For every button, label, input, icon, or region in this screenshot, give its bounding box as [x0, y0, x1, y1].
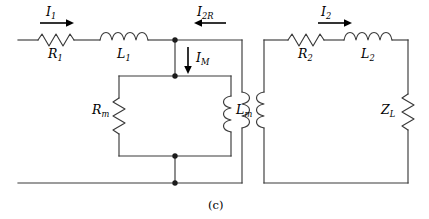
figure-caption: (c): [208, 198, 223, 212]
label-l2: L2: [361, 48, 375, 61]
current-arrow-i2-head: [344, 19, 352, 27]
node-dot-mag-top: [172, 73, 177, 78]
label-lm: Lm: [236, 104, 252, 117]
inductor-lm-symbol: [224, 96, 232, 132]
label-l1: L1: [117, 48, 131, 61]
label-zl: ZL: [381, 104, 395, 117]
resistor-r1-symbol: [38, 34, 74, 46]
current-arrow-im-head: [184, 66, 192, 74]
node-dot-mag-bottom: [172, 153, 177, 158]
label-current-im: IM: [196, 52, 210, 65]
current-arrow-i2r-head: [194, 19, 202, 27]
label-r2: R2: [298, 48, 313, 61]
label-current-i2r: I2R: [197, 6, 214, 19]
label-current-i2: I2: [321, 6, 331, 19]
inductor-l2-symbol: [344, 33, 392, 41]
inductor-l1-symbol: [100, 33, 148, 41]
label-current-i1: I1: [46, 6, 56, 19]
label-rm: Rm: [92, 104, 109, 117]
transformer-secondary-coil-symbol: [257, 92, 265, 128]
circuit-schematic: [0, 0, 429, 219]
resistor-r2-symbol: [288, 34, 324, 46]
resistor-rm-symbol: [113, 98, 125, 134]
circuit-figure: R1 L1 Rm Lm R2 L2 ZL I1 I2R IM I2 (c): [0, 0, 429, 219]
node-dot-bottom: [172, 180, 177, 185]
current-arrow-i1-head: [66, 19, 74, 27]
node-dot-top: [172, 37, 177, 42]
impedance-zl-symbol: [402, 94, 414, 130]
label-r1: R1: [48, 48, 63, 61]
